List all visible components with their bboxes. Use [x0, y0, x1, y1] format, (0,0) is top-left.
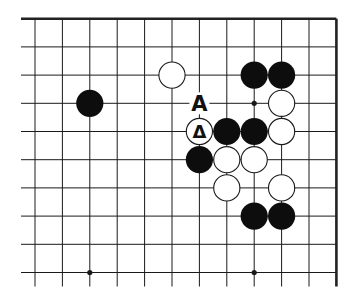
triangle-mark-icon: Δ: [192, 121, 206, 142]
black-stone-disc: [268, 62, 295, 89]
black-stone: [241, 62, 268, 89]
white-stone: Δ: [186, 118, 212, 144]
go-board: Δ A: [0, 0, 356, 300]
white-stone-disc: [214, 175, 240, 201]
black-stone-disc: [241, 203, 268, 230]
black-stone-disc: [76, 90, 103, 117]
black-stone: [241, 203, 268, 230]
point-label-a: A: [191, 92, 208, 116]
white-stone-disc: [241, 147, 267, 173]
stones: Δ: [76, 62, 295, 230]
white-stone: [269, 90, 295, 116]
white-stone: [214, 147, 240, 173]
white-stone-disc: [269, 118, 295, 144]
grid-lines: [21, 19, 336, 287]
black-stone: [213, 118, 240, 145]
white-stone: [214, 175, 240, 201]
star-point: [252, 101, 257, 106]
black-stone-disc: [241, 62, 268, 89]
white-stone-disc: [159, 62, 185, 88]
labels: A: [191, 92, 208, 116]
black-stone-disc: [268, 203, 295, 230]
star-point: [87, 270, 92, 275]
black-stone: [241, 118, 268, 145]
white-stone-disc: [269, 175, 295, 201]
white-stone-disc: [214, 147, 240, 173]
white-stone: [269, 175, 295, 201]
black-stone: [76, 90, 103, 117]
white-stone-disc: [269, 90, 295, 116]
black-stone-disc: [241, 118, 268, 145]
white-stone: [159, 62, 185, 88]
black-stone: [268, 62, 295, 89]
white-stone: [269, 118, 295, 144]
black-stone-disc: [186, 146, 213, 173]
black-stone-disc: [213, 118, 240, 145]
white-stone: [241, 147, 267, 173]
star-point: [252, 270, 257, 275]
black-stone: [186, 146, 213, 173]
black-stone: [268, 203, 295, 230]
